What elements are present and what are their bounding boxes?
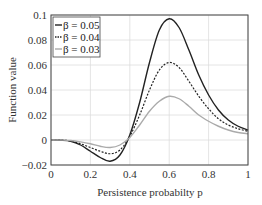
y-tick-label: 0.04 xyxy=(28,84,48,96)
legend-entry: β = 0.04 xyxy=(63,31,100,43)
x-tick-label: 0 xyxy=(48,168,54,180)
x-tick-label: 0.2 xyxy=(84,168,98,180)
y-axis-label: Function value xyxy=(6,57,18,123)
x-tick-label: 1 xyxy=(245,168,251,180)
y-tick-label: 0.02 xyxy=(28,109,47,121)
y-tick-label: −0.02 xyxy=(22,159,47,171)
y-tick-label: 0.06 xyxy=(28,59,48,71)
y-tick-label: 0.1 xyxy=(33,9,47,21)
legend-entry: β = 0.03 xyxy=(63,43,100,55)
x-tick-label: 0.6 xyxy=(162,168,176,180)
x-axis-ticks: 00.20.40.60.81 xyxy=(48,168,251,180)
x-tick-label: 0.4 xyxy=(123,168,137,180)
y-axis-ticks: −0.0200.020.040.060.080.1 xyxy=(22,9,48,171)
x-axis-label: Persistence probabilty p xyxy=(97,186,203,198)
y-tick-label: 0.08 xyxy=(28,34,48,46)
legend-entry: β = 0.05 xyxy=(63,19,100,31)
y-tick-label: 0 xyxy=(42,134,48,146)
line-chart: 00.20.40.60.81 −0.0200.020.040.060.080.1… xyxy=(0,0,262,205)
legend: β = 0.05β = 0.04β = 0.03 xyxy=(53,17,100,57)
x-tick-label: 0.8 xyxy=(202,168,216,180)
